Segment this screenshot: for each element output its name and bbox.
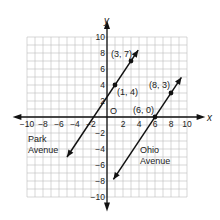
data-point	[169, 91, 174, 96]
x-tick-label: 10	[182, 119, 192, 129]
y-tick-label: 6	[100, 64, 105, 74]
y-tick-label: −4	[95, 144, 105, 154]
ohio-avenue-label-line1: Ohio	[140, 145, 159, 155]
park-avenue-arrow-start-icon	[67, 150, 73, 157]
park-avenue-label-line2: Avenue	[28, 145, 58, 155]
x-tick-label: −10	[20, 119, 35, 129]
coordinate-plane: −10−8−6−4−2246810−10−8−6−4−2246810 (1, 4…	[0, 0, 220, 220]
y-tick-label: −8	[95, 176, 105, 186]
point-label: (6, 0)	[133, 105, 154, 115]
ohio-avenue-arrow-end-icon	[175, 77, 181, 84]
y-tick-label: −2	[95, 128, 105, 138]
x-tick-label: 4	[137, 119, 142, 129]
x-axis-arrow-right-icon	[197, 114, 206, 120]
point-label: (3, 7)	[111, 49, 132, 59]
x-axis-label: x	[206, 112, 213, 123]
y-tick-label: −10	[91, 192, 106, 202]
x-tick-label: −8	[38, 119, 48, 129]
x-tick-label: −6	[54, 119, 64, 129]
x-tick-label: 2	[121, 119, 126, 129]
ohio-avenue-label-line2: Avenue	[140, 156, 170, 166]
origin-label: O	[110, 106, 117, 116]
x-tick-label: −4	[70, 119, 80, 129]
y-tick-label: 4	[100, 80, 105, 90]
x-tick-label: 8	[169, 119, 174, 129]
point-label: (8, 3)	[149, 80, 170, 90]
y-axis-label: y	[103, 15, 110, 26]
y-tick-label: −6	[95, 160, 105, 170]
park-avenue-arrow-end-icon	[132, 50, 138, 57]
y-tick-label: 8	[100, 48, 105, 58]
y-tick-label: 10	[96, 32, 106, 42]
park-avenue-label-line1: Park	[28, 134, 47, 144]
data-point	[129, 59, 134, 64]
point-label: (1, 4)	[117, 87, 138, 97]
y-axis-arrow-down-icon	[104, 203, 110, 212]
data-point	[153, 115, 158, 120]
axes	[13, 20, 206, 211]
